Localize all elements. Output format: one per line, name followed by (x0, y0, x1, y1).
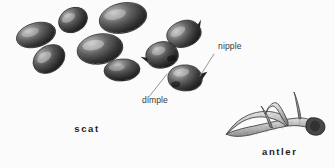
antler-upper-tine (294, 92, 301, 119)
scat-pellet-nippled (166, 62, 209, 94)
nipple-callout-label: nipple (218, 41, 242, 51)
nipple-leader-line (200, 54, 214, 76)
scat-pellet (96, 0, 149, 38)
scat-label-block: scat pellet 0.3 in pellet 0.8 cm (41, 85, 133, 168)
scat-pellet-group (13, 0, 209, 93)
antler-illustration (226, 92, 325, 136)
antler-heading: antler (262, 146, 297, 157)
illustration-page: scat pellet 0.3 in pellet 0.8 cm nipple … (0, 0, 335, 168)
dimple-callout-label: dimple (142, 95, 168, 105)
scat-heading: scat (41, 123, 133, 134)
scat-pellet (54, 2, 92, 37)
